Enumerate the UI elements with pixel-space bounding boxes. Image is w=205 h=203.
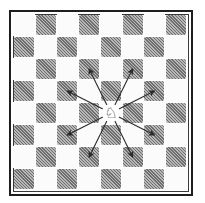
move-arrow-up-right (115, 69, 133, 105)
move-arrow-left-up (67, 91, 102, 109)
move-arrow-down-left (89, 121, 107, 157)
knight-moves-overlay: ♘ (13, 14, 187, 190)
knight-icon: ♘ (104, 104, 117, 122)
move-arrow-down-right (115, 121, 133, 157)
move-arrow-left-down (67, 117, 102, 135)
move-arrow-right-up (119, 91, 154, 109)
move-arrow-up-left (89, 69, 107, 105)
move-arrow-right-down (119, 117, 154, 135)
knight-piece: ♘ (102, 104, 120, 122)
